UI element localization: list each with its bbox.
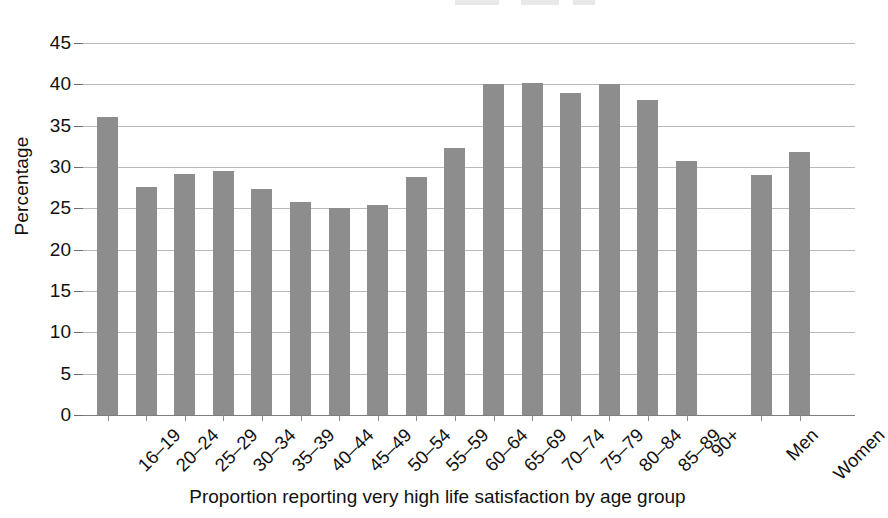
y-axis-tick (74, 43, 83, 44)
bar (136, 187, 157, 415)
x-axis-tick (185, 415, 186, 421)
bar (444, 148, 465, 415)
x-axis-tick (378, 415, 379, 421)
x-axis-tick-label: 16–19 (134, 425, 185, 476)
gridline (83, 291, 855, 292)
y-axis-tick (74, 374, 83, 375)
x-axis-tick-label: 75–79 (597, 425, 648, 476)
gridline (83, 374, 855, 375)
y-axis-tick (74, 332, 83, 333)
x-axis-tick (494, 415, 495, 421)
gridline (83, 250, 855, 251)
x-axis-tick (301, 415, 302, 421)
x-axis-tick (146, 415, 147, 421)
x-axis-tick (455, 415, 456, 421)
bar (367, 205, 388, 415)
x-axis-tick-label: 70–74 (558, 425, 609, 476)
x-axis-tick-label: 60–64 (481, 425, 532, 476)
x-axis-tick (800, 415, 801, 421)
bar (97, 117, 118, 415)
y-axis-tick-label: 40 (21, 74, 71, 93)
x-axis-tick-label: 40–44 (327, 425, 378, 476)
gridline (83, 43, 855, 44)
y-axis-tick (74, 167, 83, 168)
y-axis-tick (74, 291, 83, 292)
bar (599, 84, 620, 415)
x-axis-tick-label: 65–69 (520, 425, 571, 476)
y-axis-tick (74, 208, 83, 209)
x-axis-tick (108, 415, 109, 421)
bar (213, 171, 234, 415)
bar (522, 83, 543, 415)
y-axis-tick-label: 15 (21, 281, 71, 300)
y-axis-tick (74, 84, 83, 85)
x-axis-tick-label: 55–59 (442, 425, 493, 476)
y-axis-tick-label: 0 (21, 405, 71, 424)
x-axis-tick-label: 30–34 (249, 425, 300, 476)
x-axis-title: Proportion reporting very high life sati… (0, 486, 875, 508)
bar (406, 177, 427, 415)
x-axis-tick-label: 45–49 (365, 425, 416, 476)
gridline (83, 167, 855, 168)
gridline (83, 126, 855, 127)
plot-area: 051015202530354045 (83, 43, 855, 415)
y-axis-tick (74, 250, 83, 251)
x-axis-tick-label: Men (783, 425, 823, 465)
x-axis-tick (262, 415, 263, 421)
y-axis-tick-label: 35 (21, 116, 71, 135)
x-axis-tick-label: 20–24 (172, 425, 223, 476)
x-axis-tick (761, 415, 762, 421)
cropped-title-remnant (455, 0, 595, 5)
x-axis-tick-label: 25–29 (211, 425, 262, 476)
x-axis-tick-label: 50–54 (404, 425, 455, 476)
y-axis-tick (74, 126, 83, 127)
gridline (83, 84, 855, 85)
y-axis-tick-label: 30 (21, 157, 71, 176)
gridline (83, 208, 855, 209)
y-axis-tick-label: 45 (21, 33, 71, 52)
x-axis-tick (339, 415, 340, 421)
bar (637, 100, 658, 415)
y-axis-tick-label: 25 (21, 198, 71, 217)
bar (676, 161, 697, 415)
x-axis-tick (609, 415, 610, 421)
x-axis-tick-label: 80–84 (635, 425, 686, 476)
x-axis-tick (416, 415, 417, 421)
y-axis-title: Percentage (11, 76, 33, 296)
x-axis-tick-label: 35–39 (288, 425, 339, 476)
gridline (83, 415, 855, 416)
bar (251, 189, 272, 415)
bar (751, 175, 772, 415)
bar (483, 84, 504, 415)
y-axis-tick-label: 10 (21, 322, 71, 341)
y-axis-tick-label: 20 (21, 240, 71, 259)
bar (560, 93, 581, 415)
gridline (83, 332, 855, 333)
y-axis-tick-label: 5 (21, 364, 71, 383)
bar (174, 174, 195, 415)
bar (290, 202, 311, 415)
x-axis-tick-label: Women (829, 425, 888, 484)
bar (329, 208, 350, 415)
x-axis-tick (571, 415, 572, 421)
x-axis-tick (532, 415, 533, 421)
x-axis-tick (223, 415, 224, 421)
y-axis-tick (74, 415, 83, 416)
x-axis-tick (648, 415, 649, 421)
bar (789, 152, 810, 415)
x-axis-tick (687, 415, 688, 421)
